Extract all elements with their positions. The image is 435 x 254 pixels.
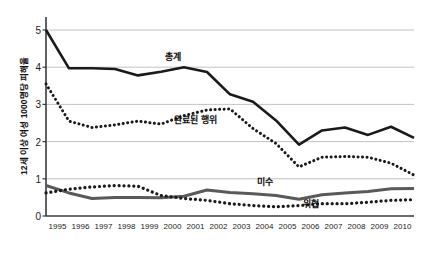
x-tick-label-1997: 1997 [95, 222, 113, 231]
x-tick-label-1998: 1998 [118, 222, 136, 231]
series-lines [46, 30, 414, 207]
x-tick-label-2006: 2006 [302, 222, 320, 231]
y-tick-label-1: 1 [19, 173, 41, 184]
x-tick-label-2001: 2001 [187, 222, 205, 231]
x-tick-label-2009: 2009 [371, 222, 389, 231]
x-tick-label-2002: 2002 [210, 222, 228, 231]
y-tick-label-3: 3 [19, 99, 41, 110]
x-tick-label-2010: 2010 [394, 222, 412, 231]
series-label-3: 위협 [303, 196, 319, 209]
x-tick-label-2007: 2007 [325, 222, 343, 231]
chart-container: 12세 이상 여성 1000명당 피해율 012345 199519961997… [0, 0, 435, 254]
x-tick-label-1995: 1995 [49, 222, 67, 231]
x-tick-label-2008: 2008 [348, 222, 366, 231]
y-tick-label-4: 4 [19, 62, 41, 73]
x-tick-label-1999: 1999 [141, 222, 159, 231]
series-line-1 [46, 84, 414, 175]
series-label-1: 완료된 행위 [174, 112, 217, 125]
x-tick-label-2003: 2003 [233, 222, 251, 231]
y-tick-label-0: 0 [19, 211, 41, 222]
x-tick-label-2000: 2000 [164, 222, 182, 231]
x-tick-label-1996: 1996 [72, 222, 90, 231]
x-tick-label-2005: 2005 [279, 222, 297, 231]
y-tick-label-2: 2 [19, 136, 41, 147]
series-line-3 [46, 186, 414, 207]
x-tick-label-2004: 2004 [256, 222, 274, 231]
series-label-0: 총계 [165, 50, 181, 63]
series-label-2: 미수 [257, 174, 273, 187]
series-line-2 [46, 186, 414, 200]
plot-area [0, 0, 435, 254]
y-tick-label-5: 5 [19, 25, 41, 36]
